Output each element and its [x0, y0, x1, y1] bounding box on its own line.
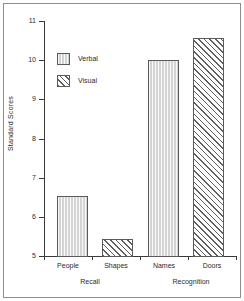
y-tick-label-6: 6 [32, 212, 36, 221]
x-tick-3 [188, 256, 189, 260]
figure-container: 11 10 9 8 7 6 5 Standard Scores [0, 0, 244, 301]
plot-area: 11 10 9 8 7 6 5 Standard Scores [0, 0, 244, 301]
y-tick-label-5: 5 [32, 251, 36, 260]
y-tick-8: 8 [39, 139, 44, 140]
y-tick-label-9: 9 [32, 94, 36, 103]
x-tick-0 [44, 256, 45, 260]
y-tick-label-7: 7 [32, 173, 36, 182]
y-tick-label-8: 8 [32, 134, 36, 143]
group-label-recognition: Recognition [158, 278, 224, 285]
y-tick-11: 11 [39, 21, 44, 22]
y-tick-10: 10 [39, 60, 44, 61]
legend-label-visual: Visual [78, 77, 97, 84]
y-tick-9: 9 [39, 99, 44, 100]
bar-people [57, 196, 88, 257]
y-tick-7: 7 [39, 178, 44, 179]
legend-label-verbal: Verbal [78, 55, 98, 62]
x-label-shapes: Shapes [96, 262, 136, 269]
y-axis-title: Standard Scores [7, 84, 14, 164]
y-tick-6: 6 [39, 217, 44, 218]
y-tick-label-10: 10 [28, 55, 36, 64]
group-label-recall: Recall [60, 278, 120, 285]
y-axis-line [44, 21, 45, 257]
bar-names [148, 60, 179, 257]
x-tick-2 [140, 256, 141, 260]
legend-swatch-visual-icon [57, 75, 70, 87]
legend-swatch-verbal-icon [57, 53, 70, 65]
bar-doors [193, 38, 224, 257]
x-label-doors: Doors [192, 262, 232, 269]
y-tick-label-11: 11 [29, 16, 36, 25]
x-label-names: Names [144, 262, 184, 269]
x-label-people: People [48, 262, 88, 269]
bar-shapes [102, 239, 133, 257]
x-tick-4 [236, 256, 237, 260]
x-tick-1 [92, 256, 93, 260]
